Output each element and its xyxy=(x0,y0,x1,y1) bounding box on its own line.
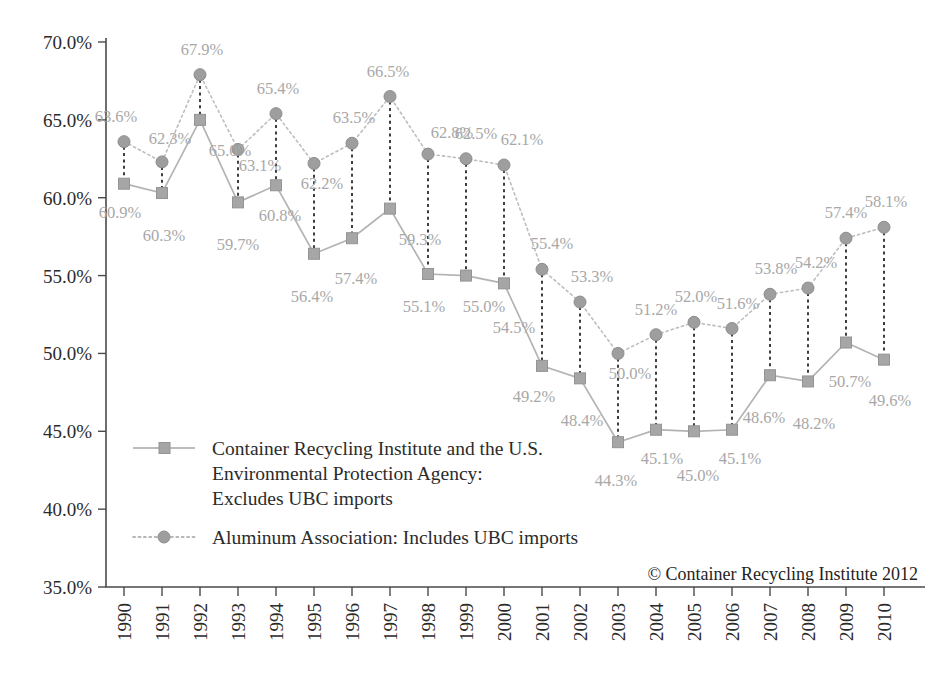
x-axis-tick-label: 2003 xyxy=(608,603,629,641)
legend-square-marker xyxy=(159,443,170,454)
data-point-marker-excludes-ubc xyxy=(575,373,586,384)
data-label-includes-ubc: 65.4% xyxy=(257,79,300,98)
data-point-marker-includes-ubc xyxy=(384,91,396,103)
data-label-excludes-ubc: 48.4% xyxy=(561,411,604,430)
y-axis-tick-label: 35.0% xyxy=(43,577,92,598)
data-label-excludes-ubc: 45.1% xyxy=(641,449,684,468)
data-label-includes-ubc: 66.5% xyxy=(367,62,410,81)
data-point-marker-includes-ubc xyxy=(308,157,320,169)
data-label-includes-ubc: 63.1% xyxy=(239,156,282,175)
data-label-excludes-ubc: 60.9% xyxy=(99,203,142,222)
data-label-excludes-ubc: 48.2% xyxy=(793,414,836,433)
data-label-excludes-ubc: 49.6% xyxy=(869,391,912,410)
chart-legend: Container Recycling Institute and the U.… xyxy=(133,438,578,548)
x-axis-tick-label: 1994 xyxy=(266,603,287,642)
x-axis-tick-label: 1998 xyxy=(418,603,439,641)
data-point-marker-includes-ubc xyxy=(840,232,852,244)
data-point-marker-includes-ubc xyxy=(574,296,586,308)
chart-container: 70.0%65.0%60.0%55.0%50.0%45.0%40.0%35.0%… xyxy=(0,0,951,682)
data-label-includes-ubc: 51.2% xyxy=(635,300,678,319)
data-point-marker-includes-ubc xyxy=(878,221,890,233)
recycling-rate-line-chart: 70.0%65.0%60.0%55.0%50.0%45.0%40.0%35.0%… xyxy=(0,0,951,682)
x-axis-tick-label: 2006 xyxy=(722,603,743,641)
data-label-includes-ubc: 62.3% xyxy=(149,129,192,148)
data-label-includes-ubc: 62.5% xyxy=(455,124,498,143)
x-axis-tick-label: 2004 xyxy=(646,603,667,642)
y-axis-tick-label: 50.0% xyxy=(43,343,92,364)
data-label-excludes-ubc: 59.7% xyxy=(217,235,260,254)
x-axis-tick-label: 2008 xyxy=(798,603,819,641)
data-point-marker-excludes-ubc xyxy=(233,197,244,208)
data-label-includes-ubc: 63.5% xyxy=(333,108,376,127)
data-point-marker-excludes-ubc xyxy=(309,248,320,259)
data-point-marker-includes-ubc xyxy=(764,288,776,300)
y-axis-tick-label: 40.0% xyxy=(43,499,92,520)
x-axis-tick-label: 2000 xyxy=(494,603,515,641)
data-point-marker-excludes-ubc xyxy=(461,270,472,281)
data-point-marker-excludes-ubc xyxy=(803,376,814,387)
data-label-includes-ubc: 58.1% xyxy=(865,192,908,211)
data-point-marker-excludes-ubc xyxy=(841,337,852,348)
data-label-excludes-ubc: 60.3% xyxy=(143,226,186,245)
x-axis-tick-labels: 1990199119921993199419951996199719981999… xyxy=(114,587,895,641)
data-point-marker-excludes-ubc xyxy=(271,180,282,191)
data-label-excludes-ubc: 45.1% xyxy=(719,449,762,468)
data-point-marker-includes-ubc xyxy=(650,329,662,341)
x-axis-tick-label: 2002 xyxy=(570,603,591,641)
data-point-marker-excludes-ubc xyxy=(195,114,206,125)
data-label-includes-ubc: 52.0% xyxy=(675,287,718,306)
data-point-marker-excludes-ubc xyxy=(157,188,168,199)
y-axis-tick-label: 70.0% xyxy=(43,32,92,53)
y-axis-tick-label: 55.0% xyxy=(43,266,92,287)
data-label-excludes-ubc: 55.1% xyxy=(403,297,446,316)
x-axis-tick-label: 2009 xyxy=(836,603,857,641)
data-point-marker-excludes-ubc xyxy=(537,360,548,371)
data-point-marker-excludes-ubc xyxy=(879,354,890,365)
data-point-marker-excludes-ubc xyxy=(119,178,130,189)
data-label-excludes-ubc: 50.7% xyxy=(829,372,872,391)
data-point-marker-includes-ubc xyxy=(688,316,700,328)
data-label-includes-ubc: 63.6% xyxy=(95,107,138,126)
data-point-marker-includes-ubc xyxy=(118,136,130,148)
x-axis-tick-label: 1993 xyxy=(228,603,249,641)
data-label-includes-ubc: 62.1% xyxy=(501,130,544,149)
data-label-excludes-ubc: 55.0% xyxy=(463,297,506,316)
data-label-includes-ubc: 67.9% xyxy=(181,40,224,59)
x-axis-tick-label: 2007 xyxy=(760,603,781,641)
legend-entry-label: Excludes UBC imports xyxy=(212,488,393,509)
x-axis-tick-label: 1990 xyxy=(114,603,135,641)
legend-entry-label: Environmental Protection Agency: xyxy=(212,463,483,484)
data-point-marker-includes-ubc xyxy=(156,156,168,168)
copyright-label: © Container Recycling Institute 2012 xyxy=(647,564,918,584)
data-point-marker-includes-ubc xyxy=(270,108,282,120)
x-axis-tick-label: 2005 xyxy=(684,603,705,641)
x-axis-tick-label: 1995 xyxy=(304,603,325,641)
data-label-excludes-ubc: 49.2% xyxy=(513,387,556,406)
data-label-includes-ubc: 51.6% xyxy=(717,294,760,313)
data-label-includes-ubc: 53.8% xyxy=(755,259,798,278)
data-label-excludes-ubc: 48.6% xyxy=(743,408,786,427)
y-axis-tick-label: 45.0% xyxy=(43,421,92,442)
series-markers xyxy=(118,69,890,448)
data-point-marker-includes-ubc xyxy=(422,148,434,160)
data-label-includes-ubc: 55.4% xyxy=(531,234,574,253)
data-point-marker-excludes-ubc xyxy=(347,233,358,244)
data-label-includes-ubc: 62.2% xyxy=(301,174,344,193)
data-label-excludes-ubc: 59.3% xyxy=(399,230,442,249)
data-point-marker-excludes-ubc xyxy=(385,203,396,214)
data-point-marker-includes-ubc xyxy=(726,323,738,335)
data-point-marker-excludes-ubc xyxy=(727,424,738,435)
data-label-excludes-ubc: 56.4% xyxy=(291,287,334,306)
data-label-excludes-ubc: 44.3% xyxy=(595,471,638,490)
data-label-includes-ubc: 53.3% xyxy=(571,267,614,286)
data-point-marker-includes-ubc xyxy=(194,69,206,81)
data-point-marker-excludes-ubc xyxy=(423,269,434,280)
data-point-marker-includes-ubc xyxy=(498,159,510,171)
data-point-marker-excludes-ubc xyxy=(613,437,624,448)
legend-entry-label: Container Recycling Institute and the U.… xyxy=(212,438,543,459)
data-point-marker-excludes-ubc xyxy=(689,426,700,437)
x-axis-tick-label: 1991 xyxy=(152,603,173,641)
x-axis-tick-label: 1992 xyxy=(190,603,211,641)
data-label-excludes-ubc: 57.4% xyxy=(335,269,378,288)
data-point-marker-includes-ubc xyxy=(612,347,624,359)
